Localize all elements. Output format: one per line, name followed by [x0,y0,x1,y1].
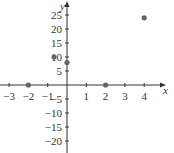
data-point [51,54,56,59]
y-tick-label: −20 [45,135,63,147]
y-tick-label: −15 [45,121,63,133]
scatter-chart: xy −3−2−11234−20−15−10−5510152025 [0,0,174,153]
y-tick-label: 25 [51,9,63,21]
ticks: −3−2−11234−20−15−10−5510152025 [3,9,147,147]
y-tick-label: 20 [51,23,63,35]
data-point [103,82,108,87]
data-points [26,15,147,87]
x-tick-label: 3 [122,90,128,102]
x-tick-label: 1 [84,90,90,102]
data-point [142,15,147,20]
y-tick-label: 15 [51,37,63,49]
x-axis-label: x [162,84,168,96]
y-tick-label: −5 [50,93,62,105]
data-point [64,60,69,65]
y-tick-label: 5 [57,65,63,77]
x-tick-label: 2 [103,90,109,102]
y-tick-label: −10 [45,107,63,119]
y-axis-arrow-icon [65,1,70,7]
x-tick-label: 4 [141,90,147,102]
x-tick-label: −2 [23,90,35,102]
x-tick-label: −3 [3,90,15,102]
data-point [26,82,31,87]
axes: xy [0,0,168,153]
